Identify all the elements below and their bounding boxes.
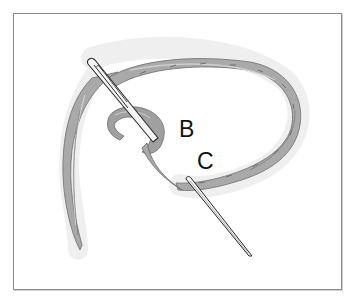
thread-knot <box>108 107 183 190</box>
label-c: C <box>197 150 214 173</box>
label-b: B <box>179 118 194 141</box>
stitch-illustration <box>0 0 353 302</box>
